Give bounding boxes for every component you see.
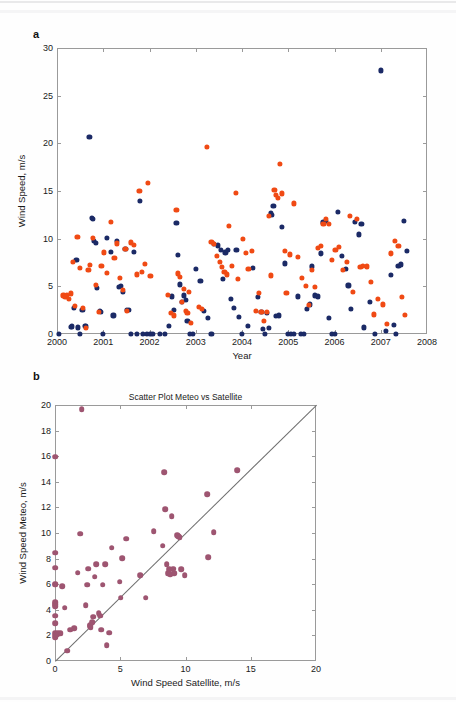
x-axis-tick (120, 405, 121, 409)
x-tick-label: 0 (52, 664, 57, 674)
data-point (204, 491, 210, 497)
data-point (88, 624, 94, 630)
data-point (52, 613, 58, 619)
data-point (83, 603, 89, 609)
data-point (65, 648, 71, 654)
y-tick-label: 4 (30, 605, 51, 615)
x-axis-title: Wind Speed Satellite, m/s (131, 677, 240, 688)
data-point (52, 550, 58, 556)
data-point (178, 567, 184, 573)
data-point (59, 583, 65, 589)
x-axis-tick (186, 405, 187, 409)
chart-panel-b: 0510152002468101214161820Wind Speed Sate… (0, 0, 456, 702)
data-point (97, 613, 103, 619)
x-tick-label: 5 (118, 664, 123, 674)
y-tick-label: 8 (30, 554, 51, 564)
y-tick-label: 16 (30, 451, 51, 461)
data-point (52, 565, 58, 571)
figure-canvas: a 20002001200220032004200520062007200805… (0, 0, 456, 702)
y-axis-tick (312, 533, 316, 534)
data-point (109, 545, 115, 551)
data-point (117, 579, 123, 585)
data-point (138, 572, 144, 578)
data-point (151, 528, 157, 534)
data-point (78, 531, 84, 537)
data-point (177, 535, 183, 541)
y-axis-tick (55, 610, 59, 611)
y-tick-label: 14 (30, 477, 51, 487)
x-tick-label: 10 (180, 664, 190, 674)
data-point (52, 620, 58, 626)
x-axis-tick (120, 657, 121, 661)
data-point (52, 603, 58, 609)
data-point (58, 631, 64, 637)
data-point (89, 619, 95, 625)
y-tick-label: 18 (30, 426, 51, 436)
data-point (104, 642, 110, 648)
y-axis-tick (55, 507, 59, 508)
y-axis-tick (312, 559, 316, 560)
data-point (106, 630, 112, 636)
data-point (62, 605, 68, 611)
data-point (102, 562, 108, 568)
data-point (119, 555, 125, 561)
data-point (75, 570, 81, 576)
y-axis-tick (55, 533, 59, 534)
data-point (162, 507, 168, 513)
data-point (118, 595, 124, 601)
y-axis-tick (312, 482, 316, 483)
y-axis-title: Wind Speed Meteo, m/s (17, 482, 28, 583)
data-point (143, 595, 149, 601)
x-axis-tick (186, 657, 187, 661)
data-point (206, 555, 212, 561)
y-axis-tick (312, 635, 316, 636)
data-point (93, 562, 99, 568)
data-point (123, 536, 129, 542)
y-axis-tick (312, 610, 316, 611)
y-axis-tick (55, 559, 59, 560)
data-point (99, 627, 105, 633)
data-point (85, 566, 91, 572)
data-point (84, 582, 90, 588)
data-point (79, 407, 85, 413)
y-tick-label: 20 (30, 400, 51, 410)
data-point (100, 582, 106, 588)
data-point (160, 543, 166, 549)
y-axis-tick (312, 431, 316, 432)
x-tick-label: 20 (311, 664, 321, 674)
y-axis-tick (312, 456, 316, 457)
x-axis-tick (251, 657, 252, 661)
x-axis-tick (251, 405, 252, 409)
y-axis-tick (312, 584, 316, 585)
data-point (92, 574, 98, 580)
chart-title: Scatter Plot Meteo vs Satellite (129, 392, 242, 402)
y-tick-label: 12 (30, 502, 51, 512)
y-tick-label: 10 (30, 528, 51, 538)
data-point (182, 572, 188, 578)
data-point (52, 582, 58, 588)
data-point (172, 571, 178, 577)
y-axis-tick (55, 482, 59, 483)
y-axis-tick (312, 507, 316, 508)
data-point (52, 454, 58, 460)
data-point (71, 626, 77, 632)
y-tick-label: 2 (30, 630, 51, 640)
data-point (169, 514, 175, 520)
data-point (211, 530, 217, 536)
x-tick-label: 15 (246, 664, 256, 674)
y-tick-label: 6 (30, 579, 51, 589)
data-point (234, 467, 240, 473)
y-tick-label: 0 (30, 656, 51, 666)
data-point (161, 469, 167, 475)
y-axis-tick (55, 431, 59, 432)
